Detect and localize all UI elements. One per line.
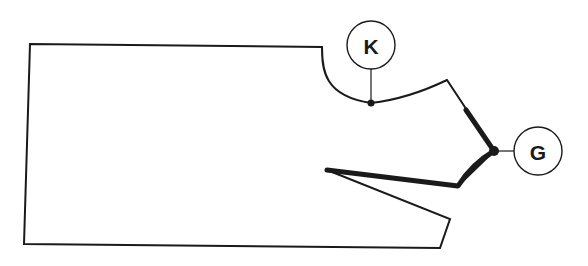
pattern-diagram: K G — [0, 0, 588, 266]
callout-g-label: G — [530, 141, 546, 164]
callout-k-label: K — [363, 35, 378, 58]
gorge-seam-highlight — [327, 110, 494, 186]
callout-g: G — [514, 127, 562, 175]
callout-g-point — [489, 146, 499, 156]
callout-k-point — [368, 100, 375, 107]
pattern-outline — [24, 44, 494, 248]
callout-k: K — [347, 21, 395, 69]
